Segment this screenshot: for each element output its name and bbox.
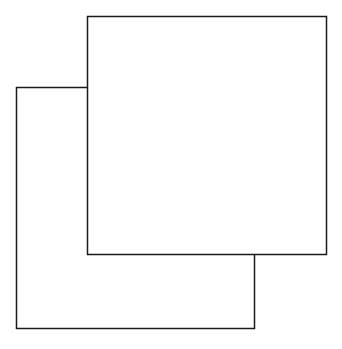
overlapping-squares-diagram — [0, 0, 342, 349]
front-square — [88, 17, 327, 255]
